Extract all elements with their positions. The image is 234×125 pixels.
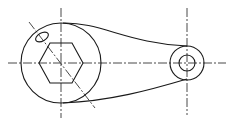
lever-drawing bbox=[0, 0, 234, 125]
upper-arm-curve bbox=[63, 23, 187, 46]
centerlines bbox=[8, 8, 226, 118]
